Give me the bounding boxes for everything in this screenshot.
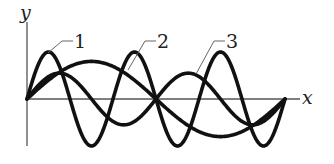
diagram-canvas: y x 1 2 3 xyxy=(0,0,334,164)
curve-label-1: 1 xyxy=(74,30,86,52)
leader-line-3 xyxy=(196,41,225,74)
x-axis-label: x xyxy=(302,86,313,108)
wave-diagram: y x 1 2 3 xyxy=(0,0,334,164)
curve-label-2: 2 xyxy=(157,30,169,52)
y-axis-label: y xyxy=(19,1,31,23)
curve-label-3: 3 xyxy=(226,30,238,52)
